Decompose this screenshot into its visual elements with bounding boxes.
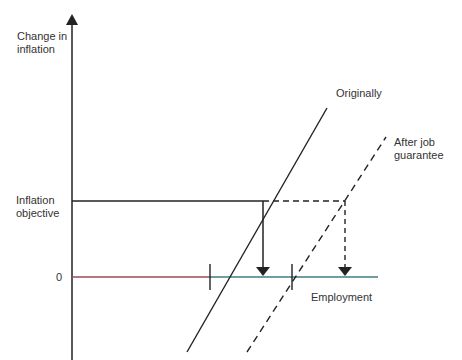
y-axis-label: Change in inflation xyxy=(17,30,67,56)
y-axis-label-line2: inflation xyxy=(17,43,67,56)
job-guarantee-diagram xyxy=(0,0,462,360)
curve-after-label-line2: guarantee xyxy=(394,149,444,162)
curve-originally xyxy=(187,108,327,352)
y-axis-arrow-icon xyxy=(66,14,78,25)
inflation-objective-line2: objective xyxy=(16,207,59,220)
curve-after-job-guarantee xyxy=(247,137,386,352)
curve-originally-label: Originally xyxy=(336,87,382,100)
y-axis-label-line1: Change in xyxy=(17,30,67,43)
arrow-down-icon xyxy=(338,267,352,276)
zero-label: 0 xyxy=(56,271,62,284)
arrow-down-icon xyxy=(256,267,270,276)
inflation-objective-line1: Inflation xyxy=(16,194,59,207)
curve-after-label-line1: After job xyxy=(394,136,444,149)
inflation-objective-label: Inflation objective xyxy=(16,194,59,220)
x-axis-label: Employment xyxy=(311,291,372,304)
curve-after-label: After job guarantee xyxy=(394,136,444,162)
